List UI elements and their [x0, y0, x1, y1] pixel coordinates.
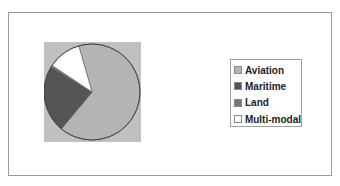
- legend-item-maritime: Maritime: [234, 78, 301, 94]
- legend-swatch-land: [234, 99, 242, 107]
- legend-item-land: Land: [234, 95, 301, 111]
- legend-item-multi-modal: Multi-modal: [234, 111, 301, 127]
- legend-item-aviation: Aviation: [234, 62, 301, 78]
- legend-swatch-multi-modal: [234, 115, 242, 123]
- legend-swatch-maritime: [234, 82, 242, 90]
- legend-label: Multi-modal: [245, 114, 301, 125]
- legend-label: Aviation: [245, 65, 284, 76]
- legend-swatch-aviation: [234, 66, 242, 74]
- pie-chart: [44, 42, 141, 142]
- legend: Aviation Maritime Land Multi-modal: [230, 59, 302, 127]
- legend-label: Land: [245, 97, 269, 108]
- legend-label: Maritime: [245, 81, 286, 92]
